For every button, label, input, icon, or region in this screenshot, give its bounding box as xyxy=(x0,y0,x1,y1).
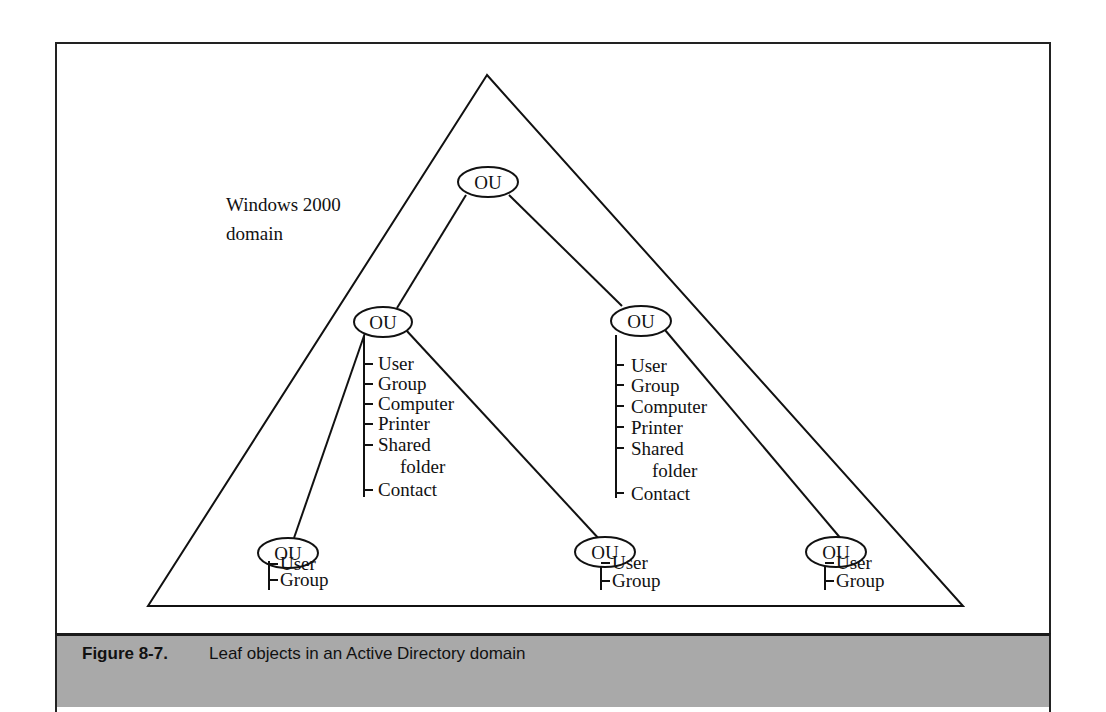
ou-label: OU xyxy=(474,172,502,193)
leaf-user: User xyxy=(378,353,415,374)
ou-node-root[interactable]: OU xyxy=(458,167,518,197)
leaf-group: Group xyxy=(280,569,329,590)
leaf-computer: Computer xyxy=(631,396,708,417)
edge-midleft-bottomleft xyxy=(294,333,365,538)
leaf-contact: Contact xyxy=(631,483,691,504)
figure-number: Figure 8-7. xyxy=(82,644,168,664)
leaf-list-mid-left: User Group Computer Printer Shared folde… xyxy=(364,336,455,500)
leaf-group: Group xyxy=(631,375,680,396)
leaf-printer: Printer xyxy=(631,417,683,438)
leaf-group: Group xyxy=(836,570,885,591)
leaf-list-mid-right: User Group Computer Printer Shared folde… xyxy=(616,335,708,504)
domain-triangle xyxy=(148,75,963,606)
leaf-printer: Printer xyxy=(378,413,430,434)
figure-caption: Figure 8-7. Leaf objects in an Active Di… xyxy=(55,633,1051,707)
leaf-computer: Computer xyxy=(378,393,455,414)
leaf-shared: Shared xyxy=(378,434,431,455)
ou-node-mid-left[interactable]: OU xyxy=(354,307,412,337)
leaf-shared: Shared xyxy=(631,438,684,459)
leaf-group: Group xyxy=(612,570,661,591)
caption-text: Leaf objects in an Active Directory doma… xyxy=(209,644,526,664)
leaf-contact: Contact xyxy=(378,479,438,500)
leaf-group: Group xyxy=(378,373,427,394)
domain-label-line2: domain xyxy=(226,223,283,244)
edge-root-midleft xyxy=(397,195,466,308)
leaf-folder: folder xyxy=(400,456,446,477)
ou-label: OU xyxy=(369,312,397,333)
domain-label-line1: Windows 2000 xyxy=(226,194,341,215)
ou-label: OU xyxy=(627,311,655,332)
edge-midright-bottomright xyxy=(665,330,842,540)
leaf-folder: folder xyxy=(652,460,698,481)
edge-root-midright xyxy=(509,195,622,306)
leaf-user: User xyxy=(631,355,668,376)
edge-midleft-bottommiddle xyxy=(406,330,600,540)
ou-node-mid-right[interactable]: OU xyxy=(611,306,671,336)
